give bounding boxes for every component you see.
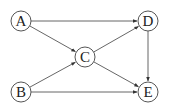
node-label: C: [80, 49, 90, 65]
edge-a-c: [30, 26, 76, 52]
edge-c-d: [94, 26, 139, 52]
node-b: B: [11, 82, 31, 102]
nodes: ABCDE: [11, 11, 158, 102]
node-label: A: [16, 13, 27, 29]
edge-b-c: [30, 62, 76, 87]
node-a: A: [11, 11, 31, 31]
dag-diagram: ABCDE: [0, 0, 169, 107]
node-label: E: [143, 84, 152, 100]
node-e: E: [138, 82, 158, 102]
node-label: B: [16, 84, 26, 100]
node-label: D: [143, 13, 154, 29]
node-c: C: [75, 47, 95, 67]
node-d: D: [138, 11, 158, 31]
edge-c-e: [94, 62, 139, 87]
